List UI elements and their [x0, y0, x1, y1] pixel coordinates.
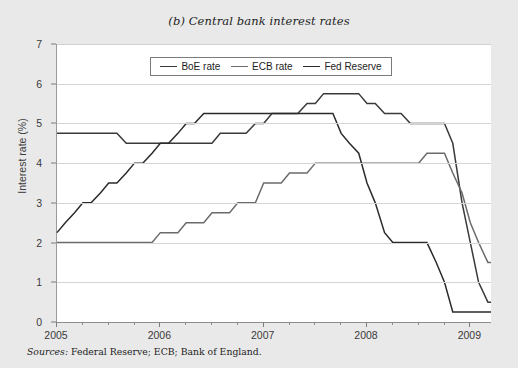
legend-label: Fed Reserve [324, 61, 381, 72]
gridline [57, 282, 491, 283]
source-note: Sources: Federal Reserve; ECB; Bank of E… [27, 346, 262, 357]
plot-area [56, 44, 491, 322]
y-tick-label: 6 [36, 78, 42, 90]
x-tick-minor [314, 322, 315, 325]
x-tick-minor [444, 322, 445, 325]
x-tick-mark [469, 322, 470, 327]
x-tick-label: 2006 [148, 329, 171, 341]
x-tick-minor [134, 322, 135, 325]
legend-label: BoE rate [181, 61, 220, 72]
legend-item[interactable]: BoE rate [160, 61, 220, 72]
y-tick-label: 7 [36, 38, 42, 50]
y-axis-title: Interest rate (%) [16, 66, 28, 246]
y-tick-label: 1 [36, 276, 42, 288]
legend-label: ECB rate [252, 61, 293, 72]
legend-line-icon [231, 66, 248, 67]
x-tick-label: 2008 [354, 329, 377, 341]
x-tick-minor [108, 322, 109, 325]
x-tick-minor [237, 322, 238, 325]
x-tick-minor [340, 322, 341, 325]
x-tick-label: 2005 [44, 329, 67, 341]
x-tick-label: 2007 [251, 329, 274, 341]
y-tick-label: 2 [36, 237, 42, 249]
figure-container: (b) Central bank interest rates 01234567… [0, 0, 518, 368]
chart-legend: BoE rateECB rateFed Reserve [150, 57, 392, 76]
x-tick-mark [56, 322, 57, 327]
y-tick-label: 3 [36, 197, 42, 209]
gridline [57, 84, 491, 85]
gridline [57, 123, 491, 124]
x-tick-minor [418, 322, 419, 325]
gridline [57, 163, 491, 164]
legend-line-icon [160, 66, 177, 67]
x-tick-minor [211, 322, 212, 325]
source-text: Federal Reserve; ECB; Bank of England. [68, 346, 262, 357]
x-tick-mark [263, 322, 264, 327]
series-line-boe-rate [57, 94, 491, 303]
x-tick-minor [289, 322, 290, 325]
series-lines [57, 44, 491, 322]
x-tick-minor [82, 322, 83, 325]
x-axis: 20052006200720082009 [0, 322, 518, 348]
y-tick-label: 5 [36, 117, 42, 129]
x-tick-mark [159, 322, 160, 327]
x-tick-label: 2009 [458, 329, 481, 341]
legend-item[interactable]: Fed Reserve [303, 61, 381, 72]
gridline [57, 243, 491, 244]
x-tick-minor [185, 322, 186, 325]
series-line-ecb-rate [57, 153, 491, 262]
legend-item[interactable]: ECB rate [231, 61, 293, 72]
x-tick-minor [392, 322, 393, 325]
source-label: Sources: [27, 346, 68, 357]
gridline [57, 44, 491, 45]
legend-line-icon [303, 66, 320, 67]
gridline [57, 203, 491, 204]
x-tick-mark [366, 322, 367, 327]
chart-title: (b) Central bank interest rates [0, 14, 518, 28]
y-tick-label: 4 [36, 157, 42, 169]
